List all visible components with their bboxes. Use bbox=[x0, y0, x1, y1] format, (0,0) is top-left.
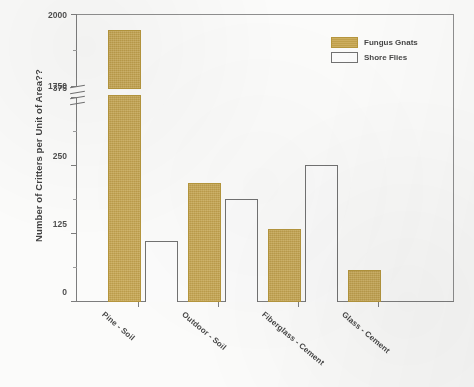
y-tick-0 bbox=[71, 301, 77, 302]
bar-fungus-gnats-pine-soil bbox=[108, 95, 141, 302]
legend-swatch-shore-flies bbox=[331, 52, 358, 63]
legend-label-fungus-gnats: Fungus Gnats bbox=[364, 38, 418, 47]
legend-item-shore-flies: Shore Flies bbox=[331, 51, 418, 63]
chart-legend: Fungus Gnats Shore Flies bbox=[331, 36, 418, 66]
legend-label-shore-flies: Shore Flies bbox=[364, 53, 407, 62]
bar-fungus-gnats-pine-soil-upper bbox=[108, 30, 141, 89]
plot-area: 0 125 250 375 1750 2000 Pine - Soil Outd… bbox=[76, 14, 454, 302]
x-axis-label-pine-soil: Pine - Soil bbox=[100, 310, 136, 342]
bar-shore-flies-outdoor-soil bbox=[225, 199, 258, 302]
y-tick-250 bbox=[71, 165, 77, 166]
x-axis-label-fiberglass-cement: Fiberglass - Cement bbox=[260, 310, 326, 367]
y-tick-1750 bbox=[71, 86, 77, 87]
x-axis-label-glass-cement: Glass - Cement bbox=[340, 310, 391, 355]
y-minor-tick bbox=[73, 131, 77, 132]
y-minor-tick bbox=[73, 50, 77, 51]
y-tick-label-1750: 1750 bbox=[48, 81, 67, 91]
y-minor-tick bbox=[73, 267, 77, 268]
bar-fungus-gnats-fiberglass-cement bbox=[268, 229, 301, 302]
bar-fungus-gnats-outdoor-soil bbox=[188, 183, 221, 302]
y-tick-125 bbox=[71, 233, 77, 234]
y-tick-2000 bbox=[71, 14, 77, 15]
bar-fungus-gnats-glass-cement bbox=[348, 270, 381, 302]
y-tick-label-125: 125 bbox=[53, 219, 67, 229]
y-minor-tick bbox=[73, 199, 77, 200]
bar-shore-flies-fiberglass-cement bbox=[305, 165, 338, 302]
bar-shore-flies-pine-soil bbox=[145, 241, 178, 302]
y-tick-375 bbox=[71, 97, 77, 98]
y-axis-title: Number of Critters per Unit of Area?? bbox=[33, 26, 44, 286]
plot-frame-right bbox=[453, 14, 454, 302]
y-tick-label-250: 250 bbox=[53, 151, 67, 161]
y-tick-label-2000: 2000 bbox=[48, 10, 67, 20]
axis-break-mark bbox=[70, 102, 85, 106]
legend-swatch-fungus-gnats bbox=[331, 37, 358, 48]
y-tick-label-0: 0 bbox=[62, 287, 67, 297]
x-axis-label-outdoor-soil: Outdoor - Soil bbox=[180, 310, 228, 352]
axis-break-mark bbox=[70, 91, 85, 95]
bar-chart-figure: Number of Critters per Unit of Area?? 0 … bbox=[0, 0, 474, 387]
legend-item-fungus-gnats: Fungus Gnats bbox=[331, 36, 418, 48]
plot-frame-top bbox=[76, 14, 454, 15]
